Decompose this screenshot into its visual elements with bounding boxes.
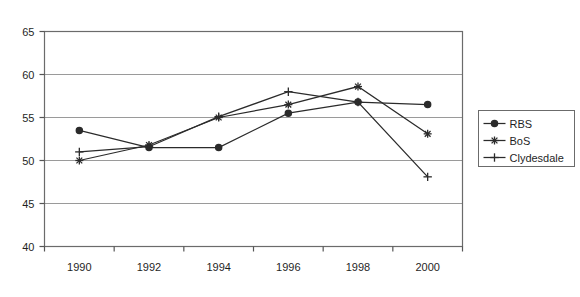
plot-area-border: [45, 32, 463, 247]
x-tick-label: 1996: [276, 261, 300, 273]
x-axis-tick-labels: 199019921994199619982000: [67, 261, 440, 273]
series-rbs: [76, 99, 431, 151]
data-point-bos-1998: [354, 83, 362, 91]
data-series: [75, 83, 432, 181]
data-point-bos-2000: [424, 130, 432, 138]
data-point-rbs-2000: [425, 102, 431, 108]
data-point-rbs-1994: [216, 145, 222, 151]
y-tick-label: 40: [22, 241, 34, 253]
data-point-clydesdale-1996: [284, 88, 292, 96]
legend-label: Clydesdale: [510, 152, 564, 164]
y-tick-label: 55: [22, 112, 34, 124]
series-line-bos: [79, 87, 427, 161]
plot-frame: [40, 32, 463, 252]
data-point-rbs-1990: [76, 127, 82, 133]
legend-label: RBS: [510, 118, 533, 130]
data-point-bos-1990: [75, 157, 83, 165]
data-point-rbs-1996: [285, 110, 291, 116]
data-point-clydesdale-1990: [75, 148, 83, 156]
series-line-rbs: [79, 102, 427, 148]
series-clydesdale: [75, 88, 432, 182]
line-chart: 656055504540 199019921994199619982000 RB…: [0, 0, 580, 297]
legend-label: BoS: [510, 135, 531, 147]
gridlines: [45, 32, 463, 247]
series-line-clydesdale: [79, 92, 427, 177]
chart-legend: RBSBoSClydesdale: [479, 111, 575, 167]
x-tick-label: 1990: [67, 261, 91, 273]
legend-marker-asterisk-icon: [491, 137, 499, 145]
y-tick-label: 45: [22, 198, 34, 210]
y-axis-tick-labels: 656055504540: [22, 26, 34, 253]
data-point-bos-1996: [284, 101, 292, 109]
x-tick-label: 1994: [206, 261, 230, 273]
x-tick-label: 1998: [346, 261, 370, 273]
x-tick-label: 1992: [137, 261, 161, 273]
y-tick-label: 50: [22, 155, 34, 167]
y-tick-label: 65: [22, 26, 34, 38]
x-tick-label: 2000: [415, 261, 439, 273]
chart-canvas: 656055504540 199019921994199619982000 RB…: [0, 0, 580, 297]
legend-marker-circle-icon: [491, 120, 497, 126]
y-tick-label: 60: [22, 69, 34, 81]
